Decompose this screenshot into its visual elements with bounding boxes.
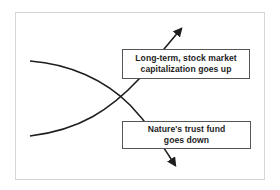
stock-market-label-line-2: capitalization goes up bbox=[141, 64, 232, 75]
stock-market-up-label-box: Long-term, stock market capitalization g… bbox=[122, 49, 250, 79]
trend-curves bbox=[0, 0, 280, 190]
stock-market-label-line-1: Long-term, stock market bbox=[135, 53, 236, 64]
nature-trust-label-line-2: goes down bbox=[164, 135, 209, 146]
rising-curve-arrow bbox=[30, 29, 181, 136]
nature-trust-label-line-1: Nature's trust fund bbox=[148, 124, 225, 135]
nature-trust-fund-down-label-box: Nature's trust fund goes down bbox=[122, 121, 251, 149]
